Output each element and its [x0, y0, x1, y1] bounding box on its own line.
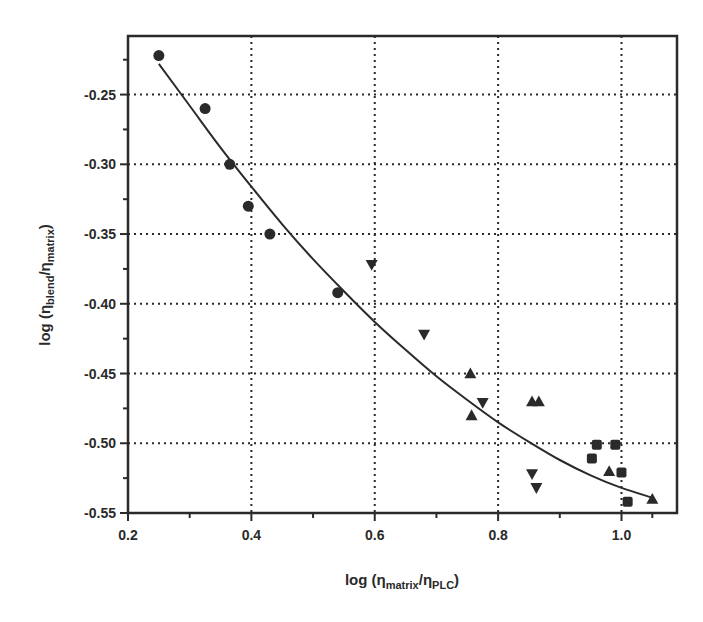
- square-marker: [610, 440, 620, 450]
- triangle-up-marker: [464, 368, 476, 379]
- y-tick-label: -0.55: [84, 505, 116, 521]
- y-axis-title: log (ηblend/ηmatrix): [36, 224, 56, 346]
- scatter-chart: 0.20.40.60.81.0 -0.25-0.30-0.35-0.40-0.4…: [0, 0, 703, 622]
- x-tick-label: 0.4: [242, 527, 262, 543]
- y-tick-label: -0.35: [84, 226, 116, 242]
- triangle-down-marker: [530, 483, 542, 494]
- triangle-down-marker: [366, 260, 378, 271]
- y-tick-label: -0.40: [84, 296, 116, 312]
- fit-curve: [159, 64, 652, 498]
- circle-marker: [264, 229, 275, 240]
- circle-marker: [243, 201, 254, 212]
- triangle-up-marker: [646, 493, 658, 504]
- square-marker: [592, 440, 602, 450]
- circle-marker: [153, 50, 164, 61]
- x-tick-labels: 0.20.40.60.81.0: [118, 527, 631, 543]
- x-axis-title: log (ηmatrix/ηPLC): [345, 571, 459, 591]
- x-tick-label: 0.6: [365, 527, 385, 543]
- square-marker: [616, 468, 626, 478]
- triangle-down-marker: [526, 469, 538, 480]
- triangle-down-marker: [418, 330, 430, 341]
- circle-marker: [224, 159, 235, 170]
- circle-marker: [200, 103, 211, 114]
- data-points: [153, 50, 658, 507]
- triangle-up-marker: [466, 409, 478, 420]
- y-tick-labels: -0.25-0.30-0.35-0.40-0.45-0.50-0.55: [84, 87, 116, 521]
- triangle-up-marker: [603, 465, 615, 476]
- y-tick-label: -0.25: [84, 87, 116, 103]
- x-tick-label: 1.0: [612, 527, 632, 543]
- axis-ticks: [120, 60, 652, 521]
- x-tick-label: 0.2: [118, 527, 138, 543]
- square-marker: [623, 497, 633, 507]
- y-tick-label: -0.45: [84, 366, 116, 382]
- y-tick-label: -0.30: [84, 156, 116, 172]
- y-tick-label: -0.50: [84, 435, 116, 451]
- square-marker: [587, 454, 597, 464]
- x-tick-label: 0.8: [488, 527, 508, 543]
- circle-marker: [332, 287, 343, 298]
